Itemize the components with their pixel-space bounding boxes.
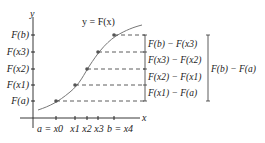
x-tick-x0: a = x0 [37,123,63,134]
curve-F [38,25,142,110]
diff-2: F(x3) − F(x2) [147,55,201,66]
y-tick-Fa: F(a) [10,95,29,107]
x-tick-x3: x3 [93,123,103,134]
total-diff: F(b) − F(a) [210,64,256,75]
diff-3: F(x2) − F(x1) [147,72,201,83]
y-ticks: F(b) F(x3) F(x2) F(x1) F(a) [6,29,35,107]
mean-value-diagram: y x y = F(x) F(b) F(x3) F(x2) F(x1) F(a)… [0,0,265,143]
x-tick-x4: b = x4 [107,123,133,134]
curve-label: y = F(x) [82,16,115,28]
y-tick-Fb: F(b) [10,29,29,41]
x-tick-x2: x2 [81,123,91,134]
y-tick-Fx3: F(x3) [6,46,30,58]
diff-4: F(x1) − F(a) [147,88,197,99]
dashed-levels [56,35,145,101]
x-tick-x1: x1 [69,123,79,134]
y-tick-Fx1: F(x1) [6,79,30,91]
x-ticks: a = x0 x1 x2 x3 b = x4 [37,116,133,134]
diff-1: F(b) − F(x3) [147,39,197,50]
y-tick-Fx2: F(x2) [6,63,30,75]
y-axis-label: y [29,8,35,19]
x-axis-label: x [141,112,147,123]
